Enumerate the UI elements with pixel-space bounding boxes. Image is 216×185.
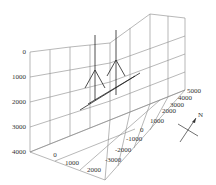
x-axis-ticks: 0 1000 2000 xyxy=(53,151,101,174)
svg-text:4000: 4000 xyxy=(12,148,27,156)
3d-plot: 0 1000 2000 3000 4000 0 1000 2000 5000 4… xyxy=(0,0,216,185)
svg-text:3000: 3000 xyxy=(12,123,27,131)
svg-text:-3000: -3000 xyxy=(105,156,122,164)
back-left-wall-grid xyxy=(30,43,110,152)
svg-text:-1000: -1000 xyxy=(126,135,143,143)
svg-text:0: 0 xyxy=(53,151,57,159)
floor-grid xyxy=(30,90,185,180)
svg-text:2000: 2000 xyxy=(162,107,177,115)
svg-text:-2000: -2000 xyxy=(115,146,132,154)
svg-text:0: 0 xyxy=(140,126,144,134)
svg-text:2000: 2000 xyxy=(12,98,27,106)
svg-text:1000: 1000 xyxy=(150,117,165,125)
svg-text:0: 0 xyxy=(23,48,27,56)
z-axis-ticks: 0 1000 2000 3000 4000 xyxy=(12,48,27,156)
svg-text:2000: 2000 xyxy=(87,166,102,174)
svg-text:1000: 1000 xyxy=(12,73,27,81)
svg-text:N: N xyxy=(198,111,203,119)
north-compass-icon: N xyxy=(178,111,203,142)
svg-text:1000: 1000 xyxy=(65,159,80,167)
